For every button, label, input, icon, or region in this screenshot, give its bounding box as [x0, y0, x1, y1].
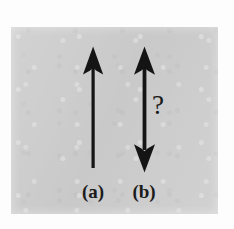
figure-page: ? (a) (b)	[0, 0, 234, 229]
figure-label-a: (a)	[69, 182, 117, 201]
question-mark-annotation: ?	[152, 92, 172, 119]
figure-label-b: (b)	[120, 182, 168, 201]
